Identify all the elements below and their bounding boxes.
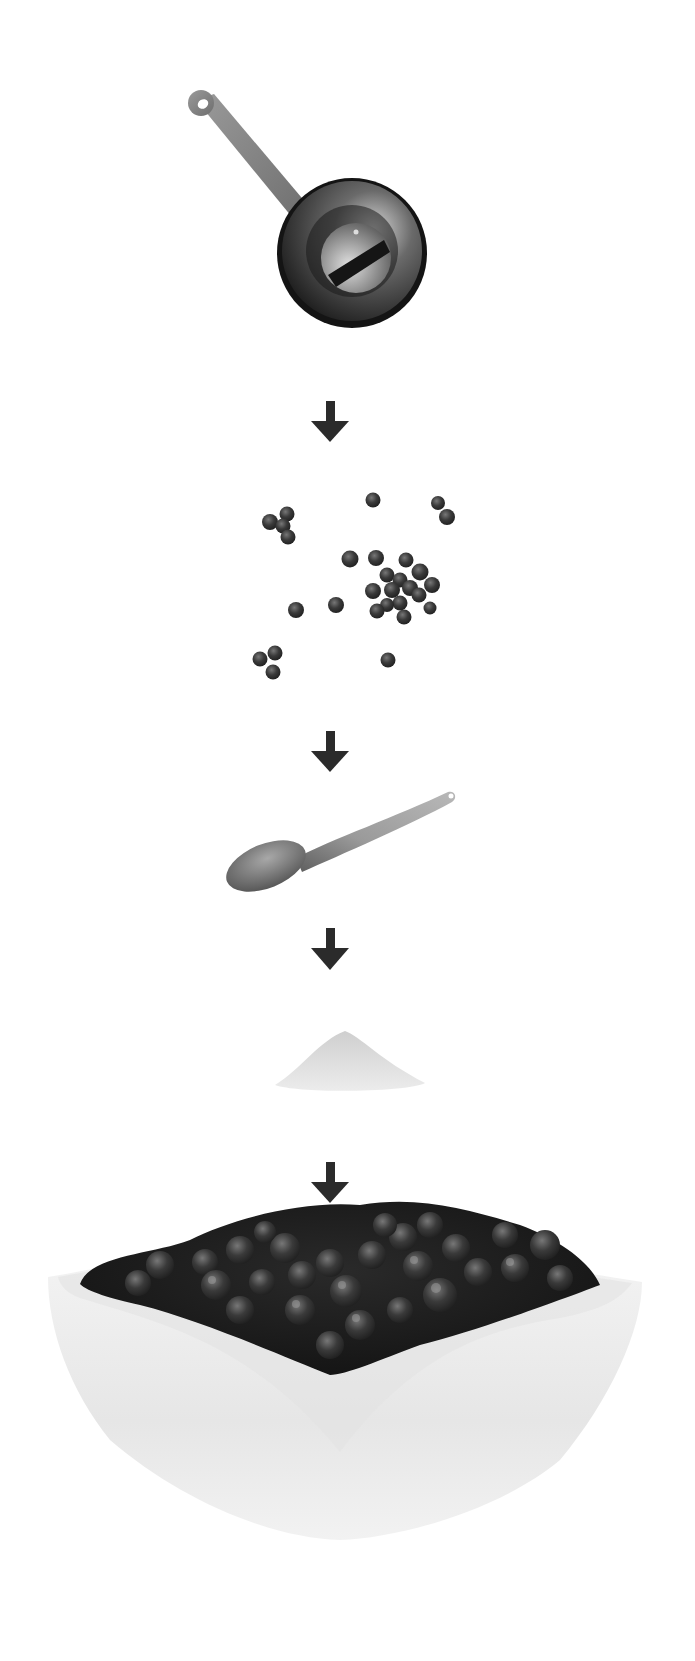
sugar-pile-icon bbox=[275, 1031, 425, 1091]
arrow-down-icon bbox=[311, 731, 349, 772]
saucepan-icon bbox=[188, 90, 427, 328]
bowl-icon bbox=[48, 1202, 642, 1540]
spoon-icon bbox=[219, 792, 455, 902]
arrow-down-icon bbox=[311, 928, 349, 970]
arrow-down-icon bbox=[311, 401, 349, 442]
recipe-flow bbox=[0, 0, 695, 1661]
arrow-down-icon bbox=[311, 1162, 349, 1203]
blueberries-icon bbox=[253, 493, 456, 680]
